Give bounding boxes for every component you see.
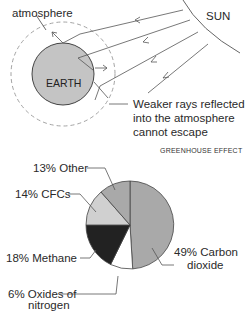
atmosphere-label: atmosphere [12,7,73,20]
reflected-line-1: Weaker rays reflected [133,98,245,111]
slice-co2 [130,181,174,269]
pie-chart [86,181,174,269]
pie-label-co2-2: dioxide [187,259,223,272]
reflected-line-3: cannot escape [133,126,208,139]
reflected-line-2: into the atmosphere [133,112,235,125]
sun-arc [183,0,240,53]
pie-label-nox-2: nitrogen [28,299,70,311]
earth-label: EARTH [46,77,81,89]
pie-label-co2-1: 49% Carbon [174,246,238,259]
pie-label-cfcs: 14% CFCs [15,188,71,201]
pie-label-other: 13% Other [33,162,88,175]
earth [32,43,94,105]
caption: GREENHOUSE EFFECT [160,147,242,154]
sun-label: SUN [206,10,230,23]
pie-label-methane: 18% Methane [6,252,77,265]
